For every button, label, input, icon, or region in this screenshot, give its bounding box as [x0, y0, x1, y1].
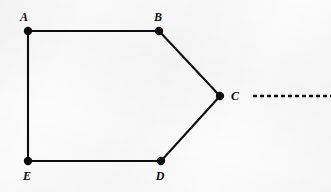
vertex-dot-e: [24, 157, 32, 165]
vertex-dot-c: [216, 92, 224, 100]
vertex-label-e: E: [22, 169, 31, 183]
pentagon-diagram: ABCDE: [0, 0, 331, 192]
vertex-label-c: C: [231, 89, 240, 103]
vertex-label-a: A: [19, 10, 28, 24]
edge-bc: [159, 31, 220, 96]
vertex-dot-b: [155, 27, 163, 35]
vertex-label-b: B: [153, 10, 162, 24]
edges-group: [28, 31, 220, 161]
labels-group: ABCDE: [19, 10, 240, 183]
vertex-label-d: D: [155, 169, 165, 183]
vertex-dot-d: [157, 157, 165, 165]
figure-canvas: ABCDE: [0, 0, 331, 192]
vertex-dot-a: [24, 27, 32, 35]
vertices-group: [24, 27, 224, 165]
edge-cd: [161, 96, 220, 161]
